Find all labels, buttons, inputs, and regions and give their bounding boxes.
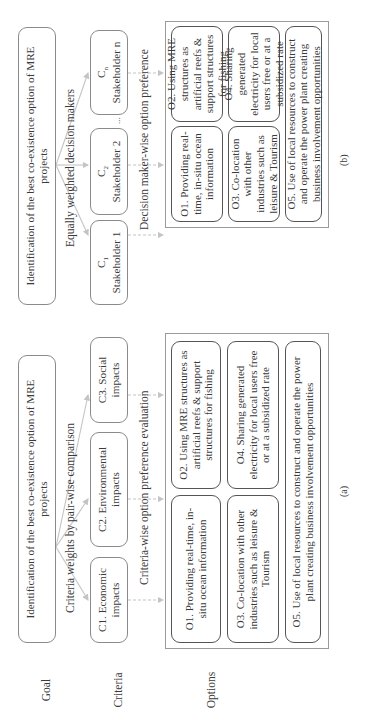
criteria-box-c2: C2. Environmental impacts: [90, 432, 128, 547]
options-container-b: O1. Providing real-time, in-situ ocean i…: [165, 21, 329, 228]
goal-box-a: Identification of the best co-existence …: [18, 355, 56, 643]
option-box-o2-a: O2. Using MRE structures as artificial r…: [171, 341, 221, 489]
option-box-o1-b: O1. Providing real-time, in-situ ocean i…: [171, 126, 223, 222]
stakeholder-box-n: Cn Stakeholder n: [90, 30, 128, 115]
stakeholder-code-n: Cn: [95, 67, 110, 78]
row-label-criteria: Criteria: [112, 650, 124, 725]
options-container-a: O1. Providing real-time, in-situ ocean i…: [165, 333, 329, 649]
row-label-goal: Goal: [40, 650, 52, 725]
criteria-box-c1: C1. Economic impacts: [90, 557, 128, 643]
criteria-box-c3: C3. Social impacts: [90, 337, 128, 423]
panel-label-b: (b): [338, 154, 349, 166]
option-box-o2-b: O2. Using MRE structures as artificial r…: [171, 26, 223, 122]
figure-ahp-hierarchy: Goal Criteria Options Identification of …: [0, 0, 365, 725]
stakeholder-box-2: C2 Stakeholder 2: [90, 128, 128, 215]
stakeholder-ellipsis: ...: [112, 117, 122, 124]
stakeholder-name-1: Stakeholder 1: [110, 232, 123, 294]
edge-label-decision-maker-preference: Decision maker-wise option preference: [138, 49, 150, 230]
row-label-options: Options: [205, 650, 217, 725]
option-box-o4-a: O4. Sharing generated electricity for lo…: [227, 341, 279, 489]
stakeholder-name-2: Stakeholder 2: [110, 141, 123, 203]
stakeholder-box-1: C1 Stakeholder 1: [90, 220, 128, 305]
option-box-o5-b: O5. Use of local resources to construct …: [285, 26, 322, 222]
edge-label-criteria-weights: Criteria weights by pair-wise comparison: [64, 423, 76, 613]
goal-box-b: Identification of the best co-existence …: [18, 27, 56, 305]
option-box-o3-a: O3. Co-location with other industries su…: [227, 495, 279, 643]
stakeholder-code-1: C1: [95, 257, 110, 268]
edge-label-equally-weighted: Equally weighted decision makers: [64, 89, 76, 247]
option-box-o5-a: O5. Use of local resources to construct …: [285, 341, 321, 643]
panel-label-a: (a): [338, 486, 349, 497]
edge-label-criteria-evaluation: Criteria-wise option preference evaluati…: [138, 391, 150, 585]
stakeholder-code-2: C2: [95, 166, 110, 177]
option-box-o1-a: O1. Providing real-time, in-situ ocean i…: [171, 495, 221, 643]
stakeholder-name-n: Stakeholder n: [110, 42, 123, 104]
option-box-o3-b: O3. Co-location with other industries su…: [228, 126, 280, 222]
option-box-o4-b: O4. Sharing generated electricity for lo…: [228, 26, 280, 122]
